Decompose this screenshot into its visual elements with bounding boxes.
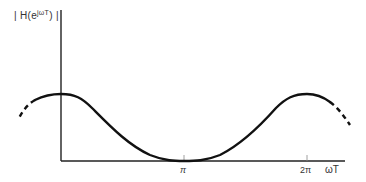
- tick-label-pi: π: [180, 165, 186, 175]
- y-axis-label: | H(ejωT) |: [14, 9, 59, 21]
- magnitude-curve: [35, 94, 330, 161]
- figure-canvas: [0, 0, 366, 182]
- periodic-extension-left: [18, 100, 35, 120]
- y-axis-label-exponent: jωT: [37, 9, 49, 16]
- tick-label-2pi: 2π: [300, 165, 311, 175]
- y-axis-label-prefix: | H(e: [14, 10, 37, 21]
- x-axis-label: ωT: [325, 164, 339, 175]
- periodic-extension-right: [330, 102, 350, 125]
- y-axis-label-suffix: ) |: [49, 10, 59, 21]
